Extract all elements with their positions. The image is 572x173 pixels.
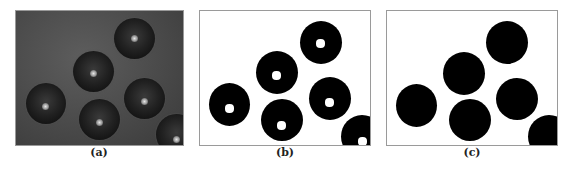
particle — [124, 78, 165, 119]
panel-a-grayscale-image — [15, 10, 184, 146]
particle — [114, 18, 155, 59]
particle — [73, 51, 114, 92]
particle — [443, 52, 485, 95]
particle — [341, 115, 371, 146]
particle — [261, 99, 303, 141]
particle — [486, 21, 528, 64]
particle — [300, 21, 342, 64]
particle — [528, 115, 558, 146]
particle — [26, 83, 66, 124]
panel-c-filled-mask-image — [386, 10, 558, 146]
particle — [79, 99, 120, 140]
particle — [309, 77, 351, 120]
particle — [256, 51, 298, 94]
particle — [396, 84, 437, 127]
panel-b-label: (b) — [265, 146, 305, 159]
particle — [449, 99, 491, 141]
panel-a-label: (a) — [79, 146, 119, 159]
particle — [496, 78, 538, 120]
particle — [156, 114, 184, 146]
panel-c-label: (c) — [452, 146, 492, 159]
panel-b-binarized-image — [199, 10, 371, 146]
particle — [209, 83, 250, 126]
